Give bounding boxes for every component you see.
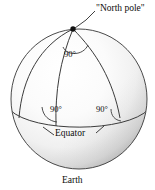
sphere-diagram-svg [0,0,155,190]
equator-label: Equator [55,129,85,139]
angle-label-top: 90° [64,50,76,59]
angle-label-right: 90° [96,105,108,114]
north-pole-dot [70,26,75,31]
angle-label-left: 90° [50,105,62,114]
sphere-body [11,29,147,169]
north-pole-leader-line [75,11,95,28]
earth-sphere-figure: "North pole" Equator Earth 90° 90° 90° [0,0,155,190]
north-pole-label: "North pole" [96,4,145,14]
earth-caption: Earth [62,176,83,186]
